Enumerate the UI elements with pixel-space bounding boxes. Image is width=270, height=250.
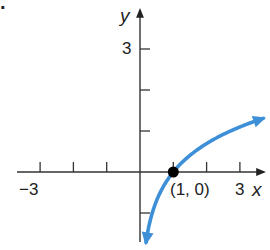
axes	[17, 10, 264, 242]
y-axis-label: y	[120, 6, 130, 25]
point-markers	[168, 167, 179, 178]
point-1-0	[168, 167, 179, 178]
point-label: (1, 0)	[170, 181, 210, 198]
plot-area	[0, 0, 270, 250]
x-tick-label-3: 3	[235, 181, 244, 198]
curve-arrow-icon	[252, 116, 266, 127]
curve-arrow-icon	[142, 231, 154, 245]
x-tick-label-neg3: −3	[19, 181, 38, 198]
y-tick-label-3: 3	[122, 40, 131, 57]
x-axis-label: x	[252, 180, 262, 199]
